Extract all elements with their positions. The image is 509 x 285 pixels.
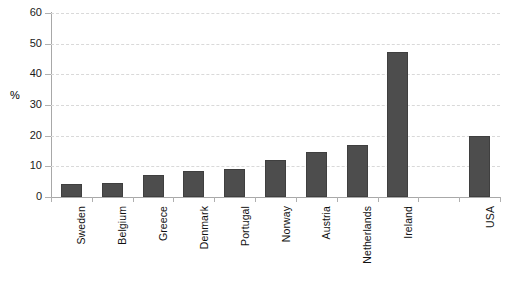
- x-tick-mark: [296, 197, 297, 202]
- x-tick-mark: [133, 197, 134, 202]
- x-tick-mark: [378, 197, 379, 202]
- bar-chart: % 0102030405060 SwedenBelgiumGreeceDenma…: [0, 0, 509, 285]
- x-axis-label: Netherlands: [361, 206, 373, 264]
- bar: [143, 175, 164, 197]
- bar: [347, 145, 368, 197]
- x-axis-label: Norway: [280, 206, 292, 242]
- x-tick-mark: [214, 197, 215, 202]
- x-axis-label: Denmark: [198, 206, 210, 249]
- y-tick-label: 0: [14, 190, 42, 202]
- y-tick-label: 20: [14, 129, 42, 141]
- y-tick-label: 50: [14, 37, 42, 49]
- x-axis-label: Austria: [320, 206, 332, 239]
- x-axis-label: Portugal: [239, 206, 251, 246]
- x-tick-mark: [173, 197, 174, 202]
- x-axis-label: USA: [484, 206, 496, 228]
- x-tick-mark: [418, 197, 419, 202]
- x-axis-label: Ireland: [402, 206, 414, 239]
- bar: [306, 152, 327, 197]
- bar: [387, 52, 408, 197]
- x-tick-mark: [255, 197, 256, 202]
- x-axis-label: Belgium: [116, 206, 128, 245]
- y-tick-label: 30: [14, 98, 42, 110]
- x-tick-mark: [500, 197, 501, 202]
- x-axis-line: [51, 197, 501, 198]
- x-axis-label: Sweden: [75, 206, 87, 245]
- bar: [102, 183, 123, 197]
- bar: [265, 160, 286, 197]
- x-tick-mark: [92, 197, 93, 202]
- plot-area: [51, 13, 500, 197]
- bar: [224, 169, 245, 197]
- y-tick-label: 10: [14, 159, 42, 171]
- bar: [183, 171, 204, 197]
- bar: [61, 184, 82, 197]
- x-tick-mark: [337, 197, 338, 202]
- bar: [469, 136, 490, 197]
- x-tick-mark: [51, 197, 52, 202]
- x-tick-mark: [459, 197, 460, 202]
- y-tick-label: 40: [14, 67, 42, 79]
- x-axis-label: Greece: [157, 206, 169, 241]
- y-tick-label: 60: [14, 6, 42, 18]
